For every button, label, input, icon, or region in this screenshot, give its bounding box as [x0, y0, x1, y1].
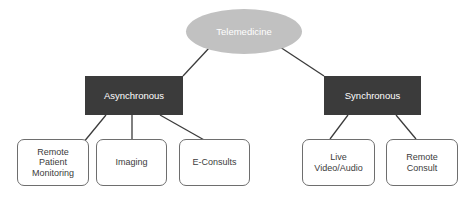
node-imaging-label: Imaging	[112, 157, 150, 168]
connector-synchronous-to-remote-consult	[396, 115, 416, 139]
node-remote-consult[interactable]: Remote Consult	[386, 139, 458, 186]
connector-synchronous-to-live-video-audio	[330, 115, 348, 139]
node-asynchronous[interactable]: Asynchronous	[85, 76, 183, 115]
node-telemedicine[interactable]: Telemedicine	[186, 9, 302, 54]
node-imaging[interactable]: Imaging	[96, 139, 167, 186]
connector-root-to-synchronous	[280, 47, 324, 76]
telemedicine-diagram: Telemedicine Asynchronous Synchronous Re…	[0, 0, 474, 200]
node-synchronous[interactable]: Synchronous	[324, 76, 421, 115]
node-synchronous-label: Synchronous	[342, 90, 403, 101]
node-remote-consult-label: Remote Consult	[403, 152, 441, 173]
node-e-consults[interactable]: E-Consults	[179, 139, 250, 186]
node-remote-patient-monitoring-label: Remote Patient Monitoring	[29, 147, 77, 179]
node-remote-patient-monitoring[interactable]: Remote Patient Monitoring	[17, 139, 89, 186]
node-e-consults-label: E-Consults	[189, 157, 239, 168]
node-telemedicine-label: Telemedicine	[213, 26, 274, 37]
node-live-video-audio-label: Live Video/Audio	[311, 152, 365, 173]
connector-asynchronous-to-e-consults	[160, 115, 206, 141]
node-asynchronous-label: Asynchronous	[101, 90, 167, 101]
connector-root-to-asynchronous	[183, 47, 210, 76]
node-live-video-audio[interactable]: Live Video/Audio	[302, 139, 375, 186]
